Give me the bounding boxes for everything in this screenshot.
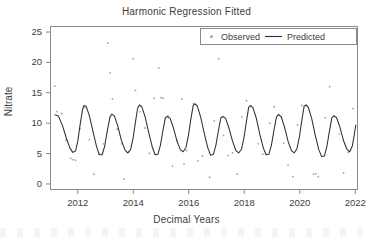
legend-label-predicted: Predicted (287, 32, 325, 42)
observed-marker-icon (207, 32, 216, 41)
predicted-line-icon (265, 32, 282, 41)
chart-container: Harmonic Regression Fitted Nitrate 05101… (0, 0, 373, 237)
x-axis-title: Decimal Years (0, 214, 373, 225)
legend-label-observed: Observed (221, 32, 260, 42)
bottom-artifact (0, 228, 373, 237)
chart-legend[interactable]: Observed Predicted (200, 28, 357, 45)
